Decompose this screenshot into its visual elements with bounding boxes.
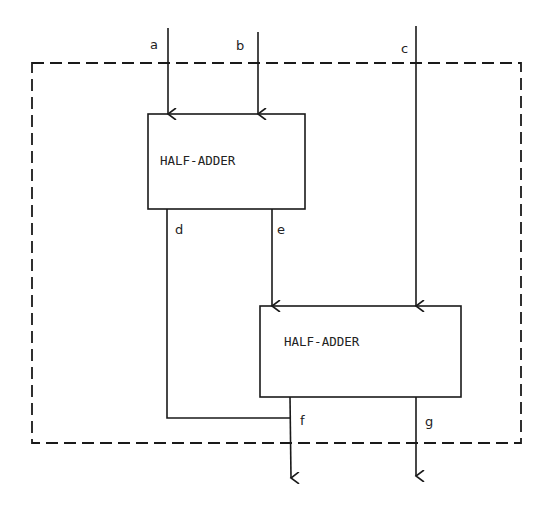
dashed-enclosure — [32, 63, 521, 443]
half-adder-1-label: HALF-ADDER — [160, 153, 236, 168]
signal-c-label: c — [401, 41, 408, 56]
signal-a-label: a — [150, 37, 158, 52]
signal-g-label: g — [425, 414, 433, 429]
signal-e-label: e — [277, 222, 285, 237]
signal-d-label: d — [175, 222, 183, 237]
full-adder-diagram: HALF-ADDER HALF-ADDER a b c d e f g — [0, 0, 550, 512]
half-adder-2-box — [260, 306, 461, 397]
signal-f-label: f — [300, 413, 305, 428]
half-adder-2-label: HALF-ADDER — [284, 334, 360, 349]
signal-f-arrow — [290, 397, 291, 478]
signal-b-label: b — [236, 38, 244, 53]
